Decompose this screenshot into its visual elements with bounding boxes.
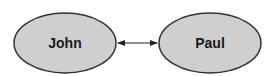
relationship-diagram: John Paul xyxy=(0,0,274,76)
paul-label: Paul xyxy=(195,35,225,51)
node-paul: Paul xyxy=(159,13,261,73)
node-john: John xyxy=(14,13,116,73)
john-label: John xyxy=(48,35,81,51)
